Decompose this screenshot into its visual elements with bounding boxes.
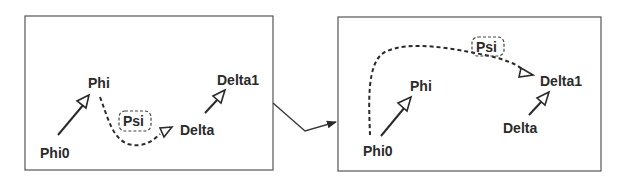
node-psi: Psi bbox=[476, 39, 497, 55]
node-phi0: Phi0 bbox=[363, 143, 393, 159]
node-delta: Delta bbox=[503, 120, 537, 136]
node-phi: Phi bbox=[410, 78, 432, 94]
before-panel: Psi Phi Phi0 Delta Delta1 bbox=[25, 16, 273, 170]
node-phi: Phi bbox=[88, 75, 110, 91]
transition-arrow bbox=[273, 103, 336, 131]
node-delta1: Delta1 bbox=[217, 72, 259, 88]
node-delta: Delta bbox=[180, 122, 214, 138]
node-phi0: Phi0 bbox=[40, 145, 70, 161]
node-psi: Psi bbox=[123, 113, 144, 129]
after-panel: Psi Phi Phi0 Delta Delta1 bbox=[338, 17, 601, 171]
diagram-canvas: Psi Phi Phi0 Delta Delta1 Psi Phi Phi0 D… bbox=[0, 0, 628, 187]
node-delta1: Delta1 bbox=[540, 73, 582, 89]
